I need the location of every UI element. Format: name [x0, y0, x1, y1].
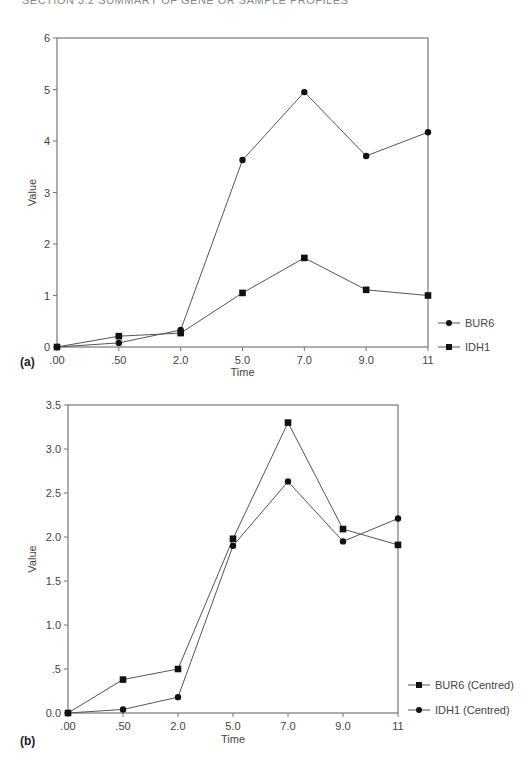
legend-label: BUR6 (Centred)	[435, 679, 514, 691]
y-tick-label: 2.5	[46, 487, 61, 499]
data-point-circle	[65, 710, 71, 716]
series-line-bur6	[68, 423, 398, 713]
legend-item: IDH1 (Centred)	[408, 704, 510, 716]
data-point-circle	[425, 129, 431, 135]
figure-canvas: 0123456.00.502.05.07.09.011TimeValue(a)B…	[0, 0, 531, 773]
data-point-square	[340, 526, 347, 533]
data-point-circle	[120, 706, 126, 712]
legend-item: BUR6 (Centred)	[408, 679, 514, 691]
data-point-square	[285, 419, 292, 426]
data-point-square	[239, 290, 246, 297]
legend-item: BUR6	[438, 317, 494, 329]
y-tick-label: .5	[52, 663, 61, 675]
y-tick-label: 3	[44, 187, 50, 199]
panel-label: (b)	[20, 734, 35, 748]
x-tick-label: 7.0	[297, 354, 312, 366]
data-point-circle	[239, 157, 245, 163]
data-point-square	[425, 292, 432, 299]
x-tick-label: 7.0	[280, 720, 295, 732]
panel-label: (a)	[20, 355, 35, 369]
y-tick-label: 2.0	[46, 531, 61, 543]
legend-item: IDH1	[438, 341, 490, 353]
y-axis-title: Value	[26, 545, 38, 572]
data-point-circle	[285, 478, 291, 484]
y-tick-label: 2	[44, 238, 50, 250]
x-tick-label: 5.0	[225, 720, 240, 732]
y-axis-title: Value	[26, 179, 38, 206]
legend-label: BUR6	[465, 317, 494, 329]
data-point-square	[120, 676, 127, 683]
x-tick-label: 9.0	[359, 354, 374, 366]
x-tick-label: .50	[115, 720, 130, 732]
x-tick-label: .00	[49, 354, 64, 366]
legend-circle-icon	[446, 320, 452, 326]
x-tick-label: 2.0	[170, 720, 185, 732]
data-point-square	[230, 535, 237, 542]
legend-label: IDH1	[465, 341, 490, 353]
x-tick-label: 11	[422, 354, 433, 366]
y-tick-label: 1.0	[46, 619, 61, 631]
legend-label: IDH1 (Centred)	[435, 704, 510, 716]
data-point-circle	[301, 89, 307, 95]
data-point-circle	[230, 543, 236, 549]
x-axis-title: Time	[230, 366, 254, 378]
chart-panel-b: 0.0.51.01.52.02.53.03.5.00.502.05.07.09.…	[20, 399, 514, 748]
legend-square-icon	[416, 682, 422, 688]
plot-frame	[57, 38, 428, 347]
y-tick-label: 1	[44, 290, 50, 302]
series-line-idh1	[68, 482, 398, 713]
data-point-square	[116, 333, 123, 340]
y-tick-label: 6	[44, 32, 50, 44]
data-point-circle	[116, 340, 122, 346]
y-tick-label: 1.5	[46, 575, 61, 587]
data-point-square	[301, 255, 308, 262]
data-point-circle	[363, 153, 369, 159]
x-tick-label: 2.0	[173, 354, 188, 366]
data-point-circle	[175, 694, 181, 700]
plot-frame	[68, 405, 398, 713]
x-axis-title: Time	[221, 733, 245, 745]
chart-panel-a: 0123456.00.502.05.07.09.011TimeValue(a)B…	[20, 32, 494, 378]
data-point-square	[395, 542, 402, 549]
legend-square-icon	[446, 344, 452, 350]
x-tick-label: .50	[111, 354, 126, 366]
x-tick-label: 11	[392, 720, 403, 732]
x-tick-label: 9.0	[335, 720, 350, 732]
y-tick-label: 0.0	[46, 707, 61, 719]
y-tick-label: 3.0	[46, 443, 61, 455]
y-tick-label: 5	[44, 84, 50, 96]
y-tick-label: 4	[44, 135, 50, 147]
series-line-idh1	[57, 258, 428, 347]
x-tick-label: 5.0	[235, 354, 250, 366]
y-tick-label: 0	[44, 341, 50, 353]
x-tick-label: .00	[60, 720, 75, 732]
data-point-square	[54, 344, 61, 351]
data-point-circle	[340, 538, 346, 544]
y-tick-label: 3.5	[46, 399, 61, 411]
series-line-bur6	[57, 92, 428, 347]
data-point-circle	[395, 515, 401, 521]
data-point-square	[177, 330, 184, 337]
data-point-square	[175, 666, 182, 673]
legend-circle-icon	[416, 707, 422, 713]
data-point-square	[363, 287, 370, 294]
